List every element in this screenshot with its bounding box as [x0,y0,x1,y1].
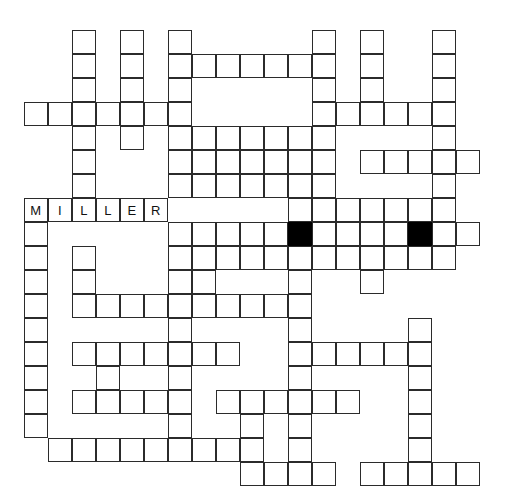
crossword-cell[interactable] [120,54,144,78]
crossword-cell[interactable] [360,246,384,270]
crossword-cell[interactable] [216,246,240,270]
crossword-cell[interactable] [312,198,336,222]
crossword-cell[interactable] [96,102,120,126]
crossword-cell[interactable] [432,150,456,174]
crossword-cell[interactable] [408,342,432,366]
crossword-filled-cell[interactable]: L [96,198,120,222]
crossword-cell[interactable] [24,390,48,414]
crossword-cell[interactable] [216,126,240,150]
crossword-cell[interactable] [288,54,312,78]
crossword-cell[interactable] [432,126,456,150]
crossword-cell[interactable] [360,102,384,126]
crossword-cell[interactable] [240,54,264,78]
crossword-cell[interactable] [120,102,144,126]
crossword-cell[interactable] [456,222,480,246]
crossword-cell[interactable] [240,150,264,174]
crossword-cell[interactable] [288,198,312,222]
crossword-cell[interactable] [72,30,96,54]
crossword-cell[interactable] [360,30,384,54]
crossword-cell[interactable] [240,246,264,270]
crossword-cell[interactable] [360,198,384,222]
crossword-cell[interactable] [96,390,120,414]
crossword-cell[interactable] [216,150,240,174]
crossword-cell[interactable] [264,222,288,246]
crossword-cell[interactable] [240,414,264,438]
crossword-filled-cell[interactable]: M [24,198,48,222]
crossword-cell[interactable] [312,30,336,54]
crossword-cell[interactable] [96,342,120,366]
crossword-cell[interactable] [144,294,168,318]
crossword-cell[interactable] [168,318,192,342]
crossword-cell[interactable] [408,246,432,270]
crossword-cell[interactable] [360,270,384,294]
crossword-cell[interactable] [384,222,408,246]
crossword-cell[interactable] [192,342,216,366]
crossword-cell[interactable] [288,126,312,150]
crossword-cell[interactable] [216,390,240,414]
crossword-cell[interactable] [168,222,192,246]
crossword-cell[interactable] [432,198,456,222]
crossword-cell[interactable] [264,126,288,150]
crossword-cell[interactable] [96,294,120,318]
crossword-cell[interactable] [168,438,192,462]
crossword-cell[interactable] [24,102,48,126]
crossword-cell[interactable] [168,246,192,270]
crossword-cell[interactable] [24,270,48,294]
crossword-cell[interactable] [360,54,384,78]
crossword-cell[interactable] [288,390,312,414]
crossword-cell[interactable] [168,150,192,174]
crossword-cell[interactable] [192,150,216,174]
crossword-cell[interactable] [336,342,360,366]
crossword-cell[interactable] [240,174,264,198]
crossword-cell[interactable] [336,246,360,270]
crossword-cell[interactable] [264,294,288,318]
crossword-cell[interactable] [168,414,192,438]
crossword-cell[interactable] [456,150,480,174]
crossword-cell[interactable] [408,414,432,438]
crossword-cell[interactable] [432,78,456,102]
crossword-cell[interactable] [72,294,96,318]
crossword-cell[interactable] [24,318,48,342]
crossword-cell[interactable] [120,390,144,414]
crossword-cell[interactable] [192,126,216,150]
crossword-cell[interactable] [216,438,240,462]
crossword-cell[interactable] [72,54,96,78]
crossword-cell[interactable] [360,342,384,366]
crossword-cell[interactable] [408,462,432,486]
crossword-cell[interactable] [120,30,144,54]
crossword-cell[interactable] [192,222,216,246]
crossword-cell[interactable] [72,126,96,150]
crossword-cell[interactable] [168,30,192,54]
crossword-filled-cell[interactable]: R [144,198,168,222]
crossword-cell[interactable] [216,342,240,366]
crossword-cell[interactable] [72,270,96,294]
crossword-cell[interactable] [240,126,264,150]
crossword-cell[interactable] [240,390,264,414]
crossword-cell[interactable] [456,462,480,486]
crossword-cell[interactable] [144,438,168,462]
crossword-cell[interactable] [288,366,312,390]
crossword-cell[interactable] [144,390,168,414]
crossword-cell[interactable] [168,126,192,150]
crossword-cell[interactable] [312,78,336,102]
crossword-cell[interactable] [48,102,72,126]
crossword-cell[interactable] [168,294,192,318]
crossword-cell[interactable] [288,462,312,486]
crossword-cell[interactable] [72,390,96,414]
crossword-cell[interactable] [288,174,312,198]
crossword-cell[interactable] [144,342,168,366]
crossword-cell[interactable] [264,54,288,78]
crossword-cell[interactable] [192,294,216,318]
crossword-cell[interactable] [120,78,144,102]
crossword-cell[interactable] [192,54,216,78]
crossword-cell[interactable] [384,246,408,270]
crossword-cell[interactable] [120,342,144,366]
crossword-cell[interactable] [288,270,312,294]
crossword-cell[interactable] [432,54,456,78]
crossword-cell[interactable] [240,294,264,318]
crossword-cell[interactable] [168,366,192,390]
crossword-cell[interactable] [432,102,456,126]
crossword-cell[interactable] [408,318,432,342]
crossword-cell[interactable] [312,150,336,174]
crossword-cell[interactable] [240,462,264,486]
